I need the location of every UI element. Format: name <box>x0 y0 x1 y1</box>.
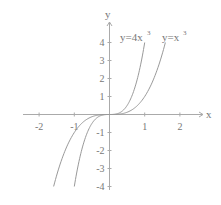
x-tick-label: -2 <box>35 121 43 132</box>
y-tick-label: 2 <box>100 73 105 84</box>
y-tick-label: -4 <box>96 181 104 192</box>
x-tick-label: 1 <box>142 121 147 132</box>
legend-x3: y=x 3 <box>162 29 187 43</box>
curve-label-x3-exponent: 3 <box>183 29 187 37</box>
y-axis-label: y <box>105 8 111 20</box>
y-tick-label: -2 <box>96 145 104 156</box>
x-axis-label: x <box>206 108 212 120</box>
x-tick-label: 2 <box>177 121 182 132</box>
legend-4x3: y=4x 3 <box>120 29 151 43</box>
y-tick-label: 3 <box>100 55 105 66</box>
x-tick-label: -1 <box>70 121 78 132</box>
y-tick-label: 4 <box>100 37 105 48</box>
y-tick-label: -1 <box>96 127 104 138</box>
curve-label-x3: y=x <box>162 31 180 43</box>
cubic-functions-chart: -2-1124321-1-2-3-4 x y y=4x 3 y=x 3 <box>0 0 221 205</box>
y-tick-label: -3 <box>96 163 104 174</box>
curve-label-4x3: y=4x <box>120 31 143 43</box>
y-tick-label: 1 <box>100 91 105 102</box>
curve-label-4x3-exponent: 3 <box>147 29 151 37</box>
